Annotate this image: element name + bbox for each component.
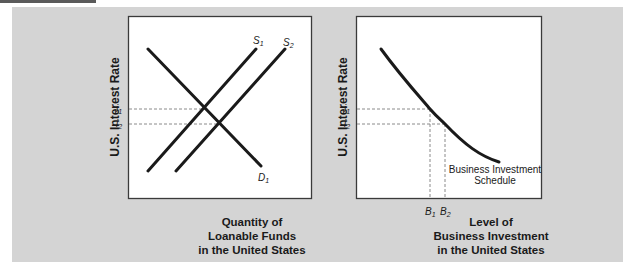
x-axis-caption-left-2: Loanable Funds xyxy=(208,230,296,242)
x-axis-caption-left-1: Quantity of xyxy=(222,216,283,228)
x-axis-caption-right-2: Business Investment xyxy=(433,230,548,242)
business-investment-chart: U.S. Interest Rate i1 i2 B1 B2 Business … xyxy=(336,17,549,257)
x-axis-caption-left-3: in the United States xyxy=(198,244,305,256)
x-axis-caption-right-1: Level of xyxy=(469,216,513,228)
b1-tick: B1 xyxy=(425,206,436,218)
x-axis-caption-right-3: in the United States xyxy=(437,244,544,256)
b2-tick: B2 xyxy=(440,206,451,218)
y-axis-title-left: U.S. Interest Rate xyxy=(108,57,122,157)
curve-label-line-1: Business Investment xyxy=(449,164,541,175)
curve-label-line-2: Schedule xyxy=(474,175,516,186)
loanable-funds-chart: U.S. Interest Rate i1 i2 S1 S2 D1 Quanti… xyxy=(108,17,312,257)
y-axis-title-right: U.S. Interest Rate xyxy=(336,57,350,157)
figure: U.S. Interest Rate i1 i2 S1 S2 D1 Quanti… xyxy=(0,0,636,275)
